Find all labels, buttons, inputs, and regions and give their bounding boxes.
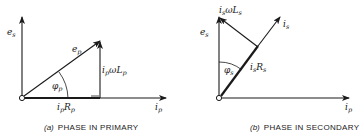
origin-b bbox=[216, 95, 221, 100]
panel-b-secondary: isωLs es is φs isRs ip (b)PHASE IN SECON… bbox=[200, 5, 360, 132]
ipRp-label: ipRp bbox=[57, 102, 76, 114]
phi-s-label: φs bbox=[224, 65, 234, 77]
ep-label: ep bbox=[72, 44, 82, 56]
is-label: is bbox=[283, 19, 290, 31]
ipwLp-label: ipωLp bbox=[102, 65, 127, 77]
is-vector bbox=[258, 17, 280, 46]
panel-a-primary: es ep ipωLp φp ipRp ip (a)PHASE IN PRIMA… bbox=[7, 17, 166, 132]
caption-a: (a)PHASE IN PRIMARY bbox=[44, 123, 139, 132]
ip-label-b: ip bbox=[345, 102, 353, 114]
iswLs-label: isωLs bbox=[219, 5, 243, 17]
caption-b: (b)PHASE IN SECONDARY bbox=[250, 123, 360, 132]
origin-a bbox=[19, 95, 24, 100]
es-label-b: es bbox=[200, 27, 209, 39]
es-label-a: es bbox=[7, 27, 16, 39]
phasor-diagrams: es ep ipωLp φp ipRp ip (a)PHASE IN PRIMA… bbox=[0, 0, 361, 139]
isRs-label: isRs bbox=[250, 62, 267, 74]
iswLs-vector bbox=[220, 18, 258, 47]
ip-label-a: ip bbox=[155, 102, 163, 114]
phi-p-label: φp bbox=[52, 81, 63, 93]
